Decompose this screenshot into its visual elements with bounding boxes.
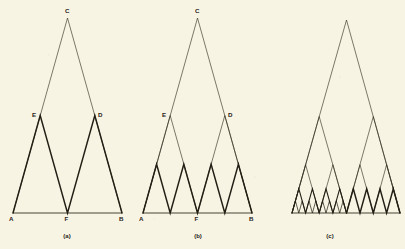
caption-panel-b: (b): [194, 233, 202, 239]
polyline-panel-c-level2: [292, 165, 400, 213]
polyline-panel-b-generation: [143, 164, 252, 213]
vertex-label-panel-a-b: B: [119, 215, 124, 222]
vertex-label-panel-a-e: E: [32, 111, 36, 118]
vertex-label-panel-b-b: B: [249, 215, 254, 222]
polyline-panel-b-level1: [143, 116, 252, 214]
polyline-panel-b-envelope: [143, 18, 252, 213]
vertex-label-panel-b-f: F: [195, 215, 199, 222]
vertex-label-panel-a-a: A: [9, 215, 14, 222]
vertex-label-panel-a-f: F: [65, 215, 69, 222]
polyline-panel-a-envelope: [13, 18, 122, 213]
caption-panel-a: (a): [63, 233, 70, 239]
vertex-label-panel-a-d: D: [98, 111, 103, 118]
vertex-label-panel-b-a: A: [139, 215, 144, 222]
recursive-triangle-figure: AFBEDC(a)AFBEDC(b)(c): [0, 0, 405, 249]
vertex-label-panel-b-e: E: [162, 111, 166, 118]
polyline-panel-a-generation: [13, 116, 122, 214]
figure-plate: AFBEDC(a)AFBEDC(b)(c): [0, 0, 405, 249]
polyline-panel-c-level1: [292, 117, 400, 214]
vertex-label-panel-b-d: D: [228, 111, 233, 118]
caption-panel-c: (c): [326, 233, 333, 239]
vertex-label-panel-b-c: C: [195, 7, 200, 14]
polyline-panel-c-envelope: [292, 20, 400, 213]
polyline-panel-c-generation-right: [347, 189, 401, 213]
vertex-label-panel-a-c: C: [65, 7, 70, 14]
